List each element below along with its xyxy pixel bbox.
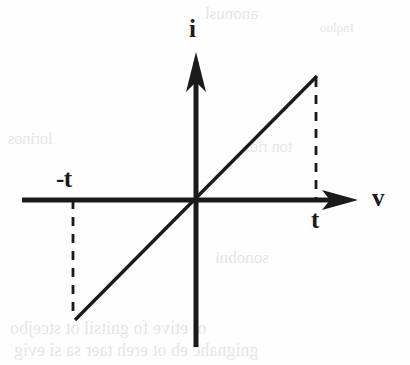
iv-characteristic-figure: anonusl Inqluo lorinos ton rio sonobni o… (0, 0, 410, 365)
i-axis-label: i (189, 16, 196, 41)
positive-threshold-label: t (311, 207, 319, 232)
negative-threshold-label: -t (56, 166, 72, 191)
v-axis-label: v (372, 185, 385, 210)
